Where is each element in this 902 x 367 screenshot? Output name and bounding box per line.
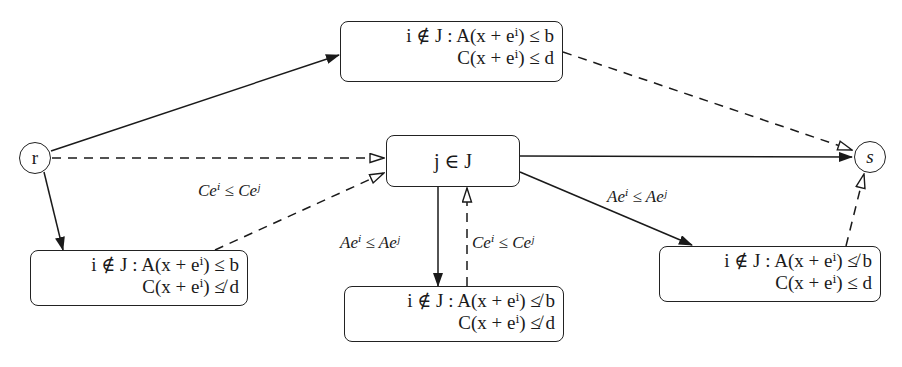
edge-center-to-bottom-right xyxy=(520,172,692,245)
node-center-label: j ∈ J xyxy=(434,150,472,172)
node-bottom-left: i ∉ J : A(x + eⁱ) ≤ b C(x + eⁱ) ≰ d xyxy=(30,250,248,306)
node-bottom-mid-line2: C(x + eⁱ) ≰ d xyxy=(353,312,555,334)
node-top: i ∉ J : A(x + eⁱ) ≤ b C(x + eⁱ) ≤ d xyxy=(340,21,563,82)
node-bottom-left-line1: i ∉ J : A(x + eⁱ) ≤ b xyxy=(39,254,239,276)
node-s: s xyxy=(854,141,886,173)
node-center: j ∈ J xyxy=(386,135,520,187)
edge-label-center-to-bottom-mid: Aeⁱ ≤ Aeʲ xyxy=(340,232,400,253)
node-r: r xyxy=(19,142,51,174)
edge-top-to-s xyxy=(563,52,852,150)
node-top-line1: i ∉ J : A(x + eⁱ) ≤ b xyxy=(349,25,554,47)
node-bottom-right: i ∉ J : A(x + eⁱ) ≰ b C(x + eⁱ) ≤ d xyxy=(659,246,881,302)
edge-center-to-s xyxy=(520,156,852,157)
node-r-label: r xyxy=(32,147,38,169)
edge-r-to-bottom-left xyxy=(44,172,63,250)
edge-bottom-right-to-s xyxy=(846,174,864,246)
node-bottom-right-line1: i ∉ J : A(x + eⁱ) ≰ b xyxy=(668,250,872,272)
node-bottom-left-line2: C(x + eⁱ) ≰ d xyxy=(39,276,239,298)
edge-label-bottom-left-to-center: Ceⁱ ≤ Ceʲ xyxy=(198,180,260,201)
edge-r-to-top xyxy=(51,55,339,151)
node-s-label: s xyxy=(866,146,873,168)
node-bottom-mid-line1: i ∉ J : A(x + eⁱ) ≰ b xyxy=(353,290,555,312)
node-bottom-right-line2: C(x + eⁱ) ≤ d xyxy=(668,272,872,294)
edge-label-bottom-mid-to-center: Ceⁱ ≤ Ceʲ xyxy=(472,232,534,253)
node-top-line2: C(x + eⁱ) ≤ d xyxy=(349,47,554,69)
edge-label-center-to-bottom-right: Aeⁱ ≤ Aeʲ xyxy=(607,186,667,207)
node-bottom-mid: i ∉ J : A(x + eⁱ) ≰ b C(x + eⁱ) ≰ d xyxy=(344,286,564,342)
